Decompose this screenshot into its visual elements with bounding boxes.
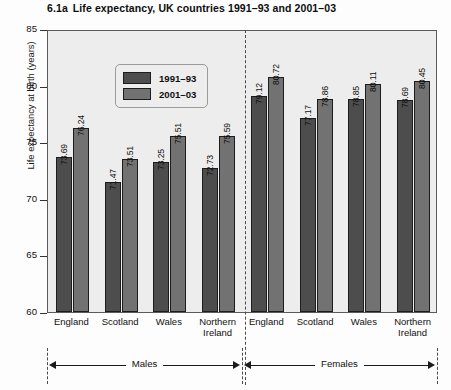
bar: [122, 159, 138, 312]
bar-value-label: 80.45: [417, 67, 427, 88]
bar-value-label: 72.73: [205, 155, 215, 176]
bar: [105, 182, 121, 312]
bar-value-label: 78.69: [400, 87, 410, 108]
y-axis-tick-mark: [40, 87, 47, 88]
legend-label: 1991–93: [159, 73, 196, 84]
chart-page: 6.1aLife expectancy, UK countries 1991–9…: [0, 0, 451, 390]
group-bracket: Females: [244, 360, 435, 372]
bar: [153, 162, 169, 312]
legend-item: 1991–93: [123, 70, 196, 86]
legend-label: 2001–03: [159, 89, 196, 100]
bar-value-label: 79.12: [254, 83, 264, 104]
bracket-tick: [437, 348, 438, 384]
bar-value-label: 75.51: [173, 123, 183, 144]
bar-value-label: 73.51: [125, 146, 135, 167]
x-axis-category-label: NorthernIreland: [379, 316, 447, 338]
chart-legend: 1991–93 2001–03: [115, 64, 208, 108]
bar-value-label: 73.25: [156, 149, 166, 170]
y-axis-tick-mark: [40, 313, 47, 314]
bracket-label: Females: [244, 358, 435, 369]
bar-value-label: 78.85: [351, 86, 361, 107]
y-axis-tick-label: 75: [26, 136, 37, 147]
bar: [317, 99, 333, 312]
bar: [73, 128, 89, 312]
bar-value-label: 75.59: [222, 123, 232, 144]
chart-title-text: Life expectancy, UK countries 1991–93 an…: [73, 2, 336, 14]
y-axis-tick-label: 85: [26, 23, 37, 34]
bar: [348, 99, 364, 312]
legend-swatch-icon: [123, 88, 151, 100]
bracket-tick: [47, 348, 48, 384]
y-axis-tick-label: 65: [26, 249, 37, 260]
bracket-tick: [242, 348, 243, 384]
bar-value-label: 78.86: [320, 85, 330, 106]
bar: [365, 84, 381, 312]
bar-value-label: 71.47: [108, 169, 118, 190]
legend-item: 2001–03: [123, 86, 196, 102]
y-axis-tick-mark: [40, 143, 47, 144]
bar-value-label: 77.17: [303, 105, 313, 126]
bar: [300, 118, 316, 312]
bar: [414, 81, 430, 312]
bar: [56, 157, 72, 312]
group-bracket: Males: [49, 360, 240, 372]
y-axis-tick-mark: [40, 200, 47, 201]
bar: [202, 168, 218, 312]
bar: [397, 100, 413, 312]
y-axis-tick-label: 70: [26, 193, 37, 204]
bracket-label: Males: [49, 358, 240, 369]
y-axis-tick-mark: [40, 30, 47, 31]
legend-swatch-icon: [123, 72, 151, 84]
bar-value-label: 80.11: [368, 72, 378, 92]
bar-value-label: 73.69: [59, 144, 69, 165]
plot-area: 73.6976.2471.4773.5173.2575.5172.7375.59…: [47, 30, 437, 313]
bar: [170, 136, 186, 312]
chart-title-number: 6.1a: [47, 2, 68, 14]
y-axis-tick-label: 60: [26, 306, 37, 317]
y-axis-tick-label: 80: [26, 80, 37, 91]
bar-value-label: 76.24: [76, 115, 86, 136]
y-axis-title: Life expectancy at birth (years): [25, 6, 36, 206]
bar-value-label: 80.72: [271, 64, 281, 85]
bar: [268, 77, 284, 312]
chart-title: 6.1aLife expectancy, UK countries 1991–9…: [47, 2, 336, 14]
bar: [251, 96, 267, 312]
y-axis-tick-mark: [40, 256, 47, 257]
bar: [219, 136, 235, 312]
